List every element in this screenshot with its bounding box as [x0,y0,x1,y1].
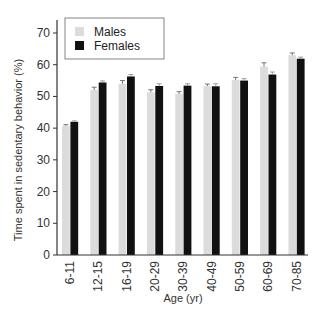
bar-females-30-39 [184,86,192,255]
x-tick-label: 40-49 [205,261,219,292]
bar-males-70-85 [288,55,296,255]
bar-males-50-59 [232,80,240,255]
bar-males-20-29 [147,92,155,255]
x-axis: 6-1112-1516-1920-2930-3940-4950-5960-697… [57,255,308,292]
legend: Males Females [65,18,164,59]
legend-label-females: Females [94,39,140,53]
y-tick-label: 50 [37,89,51,103]
x-tick-label: 12-15 [91,261,105,292]
legend-swatch-females [75,41,84,50]
bar-males-6-11 [62,126,70,255]
bar-males-16-19 [119,84,127,255]
bar-males-40-49 [204,86,212,255]
bar-females-60-69 [269,75,277,255]
x-tick-label: 70-85 [290,261,304,292]
bar-chart: 010203040506070 6-1112-1516-1920-2930-39… [0,0,323,321]
x-tick-label: 50-59 [233,261,247,292]
bar-females-70-85 [297,59,305,255]
bar-females-50-59 [240,81,248,255]
legend-swatch-males [75,27,84,36]
bar-males-12-15 [90,90,98,255]
y-axis: 010203040506070 [37,20,57,262]
x-tick-label: 20-29 [148,261,162,292]
y-axis-title: Time spent in sedentary behavior (%) [12,59,24,241]
bar-series [62,53,305,255]
bar-females-16-19 [127,76,135,255]
bar-males-30-39 [175,94,183,255]
y-tick-label: 70 [37,26,51,40]
y-tick-label: 30 [37,153,51,167]
y-tick-label: 60 [37,58,51,72]
x-tick-label: 6-11 [63,261,77,284]
x-axis-title: Age (yr) [163,292,202,304]
x-tick-label: 16-19 [120,261,134,292]
x-tick-label: 60-69 [261,261,275,292]
x-tick-label: 30-39 [176,261,190,292]
y-tick-label: 20 [37,185,51,199]
y-tick-label: 10 [37,216,51,230]
bar-females-40-49 [212,86,220,255]
legend-label-males: Males [94,25,126,39]
y-tick-label: 0 [43,248,50,262]
bar-females-6-11 [70,122,78,255]
y-tick-label: 40 [37,121,51,135]
bar-females-12-15 [99,82,107,255]
bar-males-60-69 [260,67,268,255]
bar-females-20-29 [155,86,163,255]
